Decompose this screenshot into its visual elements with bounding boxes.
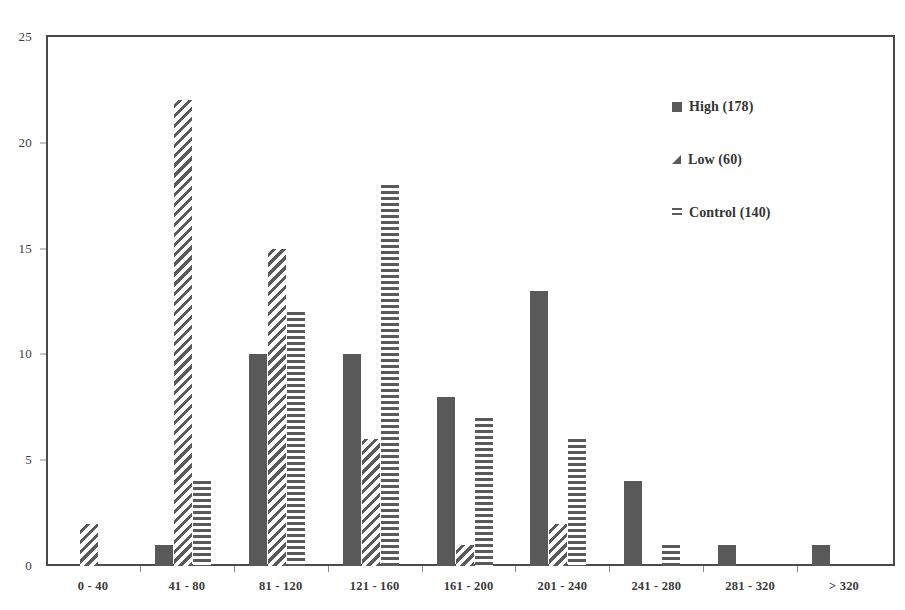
bar-low-2 — [268, 249, 286, 566]
bar-high-1 — [155, 545, 173, 566]
x-axis-tick-mark — [328, 566, 329, 572]
bar-high-3 — [343, 354, 361, 566]
bar-control-3 — [381, 185, 399, 566]
x-axis-tick-mark — [515, 566, 516, 572]
x-axis-tick-mark — [422, 566, 423, 572]
x-axis-tick-mark — [234, 566, 235, 572]
y-axis-tick-mark — [40, 142, 46, 143]
solid-square-icon — [672, 102, 682, 112]
y-axis-tick-mark — [40, 248, 46, 249]
legend-item-control[interactable]: Control (140) — [672, 186, 862, 239]
bar-high-7 — [718, 545, 736, 566]
bar-high-2 — [249, 354, 267, 566]
x-axis-tick-label: 161 - 200 — [444, 579, 494, 594]
legend-item-high[interactable]: High (178) — [672, 80, 862, 133]
x-axis-tick-label: 281 - 320 — [725, 579, 775, 594]
hatched-triangle-icon — [672, 155, 681, 164]
bar-high-8 — [812, 545, 830, 566]
y-axis-tick-label: 25 — [19, 29, 32, 45]
x-axis-tick-mark — [703, 566, 704, 572]
y-axis-tick-mark — [40, 460, 46, 461]
x-axis-tick-label: 81 - 120 — [259, 579, 302, 594]
x-axis-tick-label: 0 - 40 — [78, 579, 108, 594]
legend-item-label: Control (140) — [689, 205, 771, 221]
bar-control-4 — [475, 418, 493, 566]
bar-control-1 — [193, 481, 211, 566]
bar-low-5 — [549, 524, 567, 566]
bar-high-6 — [624, 481, 642, 566]
bar-low-0 — [80, 524, 98, 566]
legend-item-label: Low (60) — [688, 152, 742, 168]
x-axis-tick-mark — [140, 566, 141, 572]
bar-low-4 — [456, 545, 474, 566]
horizontal-lines-icon — [672, 208, 682, 218]
legend-item-low[interactable]: Low (60) — [672, 133, 862, 186]
y-axis-tick-label: 5 — [25, 452, 32, 468]
x-axis-tick-mark — [609, 566, 610, 572]
y-axis-tick-label: 10 — [19, 346, 32, 362]
bar-control-2 — [287, 312, 305, 566]
bar-control-6 — [662, 545, 680, 566]
legend-item-label: High (178) — [689, 99, 753, 115]
x-axis-tick-mark — [797, 566, 798, 572]
bar-low-3 — [362, 439, 380, 566]
bar-high-4 — [437, 397, 455, 566]
y-axis-tick-label: 15 — [19, 241, 32, 257]
x-axis-tick-label: 201 - 240 — [538, 579, 588, 594]
x-axis: 0 - 4041 - 8081 - 120121 - 160161 - 2002… — [46, 566, 895, 610]
x-axis-tick-label: 241 - 280 — [631, 579, 681, 594]
x-axis-tick-label: > 320 — [829, 579, 859, 594]
x-axis-tick-label: 121 - 160 — [350, 579, 400, 594]
bar-low-1 — [174, 100, 192, 566]
y-axis-tick-label: 20 — [19, 135, 32, 151]
bar-chart: 0510152025 0 - 4041 - 8081 - 120121 - 16… — [0, 0, 905, 610]
y-axis-tick-label: 0 — [25, 558, 32, 574]
bar-high-5 — [530, 291, 548, 566]
x-axis-tick-label: 41 - 80 — [168, 579, 205, 594]
y-axis: 0510152025 — [0, 0, 46, 610]
bar-control-5 — [568, 439, 586, 566]
chart-legend: High (178)Low (60)Control (140) — [672, 80, 862, 239]
y-axis-tick-mark — [40, 354, 46, 355]
